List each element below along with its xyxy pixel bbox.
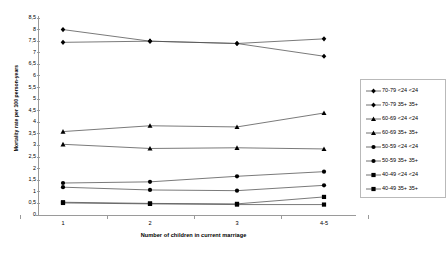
legend-label: 50-59 <24 <24 [382, 144, 418, 150]
y-axis-tick-label: 5 [33, 96, 36, 101]
y-axis-tick-label: 8 [33, 27, 36, 32]
data-series [61, 142, 327, 151]
series-line [63, 185, 324, 190]
legend-item: 60-69 <24 <24 [365, 112, 445, 126]
y-axis-tick-label: 7,5 [29, 38, 37, 43]
x-axis-tick-mark [368, 215, 369, 219]
data-point-marker [322, 111, 327, 116]
y-axis-tick-label: 6 [33, 73, 36, 78]
data-series [61, 183, 326, 193]
series-line [63, 113, 324, 132]
x-axis-tick-label: 4-5 [320, 221, 328, 227]
data-point-marker [322, 202, 326, 206]
data-point-marker [148, 202, 152, 206]
legend-label: 40-49 <24 <24 [382, 172, 418, 178]
y-axis-tick-label: 1,5 [29, 178, 37, 183]
legend-item: 60-69 35+ 35+ [365, 126, 445, 140]
y-axis-tick-label: 4,5 [29, 108, 37, 113]
x-axis-tick-mark [194, 215, 195, 219]
series-line [63, 39, 324, 44]
data-point-marker [148, 180, 152, 184]
y-axis-tick-label: 3,5 [29, 131, 37, 136]
series-canvas [41, 18, 346, 215]
x-axis-tick-mark [107, 215, 108, 219]
data-point-marker [148, 188, 152, 192]
data-series [61, 27, 327, 59]
legend-marker-icon [365, 128, 382, 138]
y-axis-tick-label: 5,5 [29, 85, 37, 90]
series-line [63, 144, 324, 149]
legend-item: 50-59 35+ 35+ [365, 154, 445, 168]
data-point-marker [61, 181, 65, 185]
series-line [63, 172, 324, 183]
y-axis-tick-label: 6,5 [29, 62, 37, 67]
y-axis-line [38, 16, 39, 216]
data-point-marker [322, 54, 327, 59]
data-point-marker [235, 189, 239, 193]
y-axis-tick-label: 7 [33, 50, 36, 55]
legend-item: 50-59 <24 <24 [365, 140, 445, 154]
legend-marker-icon [365, 86, 382, 96]
data-point-marker [61, 27, 66, 32]
legend-marker-icon [365, 100, 382, 110]
y-axis-tick-label: 2 [33, 166, 36, 171]
y-axis-tick-label: 1 [33, 189, 36, 194]
y-axis-title-text: Mortality rate per 100 person-years [13, 64, 19, 150]
legend-marker-icon [365, 184, 382, 194]
y-axis-tick-label: 2,5 [29, 154, 37, 159]
chart-legend: 70-79 <24 <2470-79 35+ 35+60-69 <24 <246… [360, 79, 446, 198]
legend-marker-icon [365, 170, 382, 180]
legend-item: 40-49 <24 <24 [365, 168, 445, 182]
series-line [63, 30, 324, 57]
x-axis-tick-mark [20, 215, 21, 219]
legend-label: 50-59 35+ 35+ [382, 158, 418, 164]
data-point-marker [322, 170, 326, 174]
legend-label: 60-69 <24 <24 [382, 116, 418, 122]
y-axis-tick-label: 0,5 [29, 201, 37, 206]
x-axis-line [36, 215, 356, 216]
x-axis-tick-label: 1 [61, 221, 64, 227]
data-point-marker [61, 40, 66, 45]
series-line [63, 197, 324, 204]
mortality-rate-line-chart: Mortality rate per 100 person-years 00,5… [0, 0, 448, 260]
legend-marker-icon [365, 114, 382, 124]
legend-label: 70-79 <24 <24 [382, 88, 418, 94]
x-axis-tick-label: 2 [148, 221, 151, 227]
legend-label: 70-79 35+ 35+ [382, 102, 418, 108]
data-point-marker [148, 39, 153, 44]
data-series [61, 111, 327, 134]
legend-item: 40-49 35+ 35+ [365, 182, 445, 196]
x-axis-tick-mark [281, 215, 282, 219]
data-point-marker [322, 195, 326, 199]
data-point-marker [235, 174, 239, 178]
y-axis-tick-labels: 00,511,522,533,544,555,566,577,588,5 [20, 18, 36, 215]
data-series [61, 170, 326, 186]
y-axis-tick-label: 3 [33, 143, 36, 148]
legend-item: 70-79 <24 <24 [365, 84, 445, 98]
data-series [61, 36, 327, 46]
plot-area [41, 18, 346, 215]
legend-item: 70-79 35+ 35+ [365, 98, 445, 112]
y-axis-tick-label: 4 [33, 120, 36, 125]
data-point-marker [235, 202, 239, 206]
data-point-marker [61, 185, 65, 189]
data-point-marker [61, 201, 65, 205]
data-point-marker [322, 183, 326, 187]
x-axis-title: Number of children in current marriage [41, 232, 346, 238]
legend-label: 60-69 35+ 35+ [382, 130, 418, 136]
legend-label: 40-49 35+ 35+ [382, 186, 418, 192]
legend-marker-icon [365, 156, 382, 166]
data-point-marker [322, 36, 327, 41]
x-axis-tick-label: 3 [235, 221, 238, 227]
legend-marker-icon [365, 142, 382, 152]
data-point-marker [235, 41, 240, 46]
y-axis-tick-label: 8,5 [29, 15, 37, 20]
